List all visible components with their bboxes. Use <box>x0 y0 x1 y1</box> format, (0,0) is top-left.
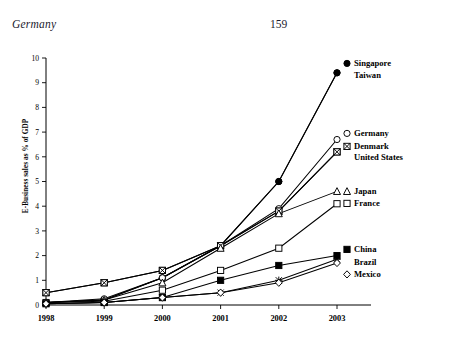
series-line-france <box>46 204 337 303</box>
series-lines <box>46 73 337 304</box>
series-line-mexico <box>46 263 337 304</box>
legend-label-singapore: Singapore <box>354 58 391 68</box>
x-tick-label: 2003 <box>329 314 346 323</box>
series-line-denmark <box>46 152 337 293</box>
series-line-japan <box>46 191 337 302</box>
marker-taiwan-2003 <box>334 70 340 76</box>
marker-taiwan-2002 <box>276 178 282 184</box>
legend-label-united-states: United States <box>354 152 404 162</box>
y-tick-label: 2 <box>35 251 39 260</box>
y-tick-label: 4 <box>35 202 39 211</box>
series-line-singapore <box>46 73 337 303</box>
legend-marker-singapore <box>344 60 350 66</box>
x-axis: 199819992000200120022003 <box>38 305 371 323</box>
y-axis: 012345678910 <box>31 54 46 310</box>
marker-france-2000 <box>159 287 165 293</box>
marker-japan-2003 <box>334 188 341 195</box>
series-line-united-states <box>46 152 337 293</box>
page: Germany 159 E-Business sales as % of GDP… <box>0 0 451 339</box>
legend-label-japan: Japan <box>354 186 377 196</box>
y-tick-label: 10 <box>31 54 39 63</box>
marker-france-2001 <box>218 267 224 273</box>
y-tick-label: 7 <box>35 128 39 137</box>
y-tick-label: 5 <box>35 177 39 186</box>
page-number: 159 <box>0 18 451 30</box>
y-tick-label: 1 <box>35 276 39 285</box>
legend-label-denmark: Denmark <box>354 141 389 151</box>
legend-label-taiwan: Taiwan <box>354 70 381 80</box>
legend-label-france: France <box>354 198 380 208</box>
chart-legend: SingaporeTaiwanGermanyDenmarkUnited Stat… <box>344 58 404 279</box>
legend-marker-mexico <box>344 271 351 278</box>
legend-marker-china <box>344 246 350 252</box>
x-tick-label: 1998 <box>38 314 55 323</box>
x-tick-label: 2002 <box>270 314 287 323</box>
x-tick-label: 2001 <box>212 314 229 323</box>
marker-france-2002 <box>276 245 282 251</box>
legend-marker-france <box>344 200 350 206</box>
x-tick-label: 1999 <box>96 314 113 323</box>
series-line-taiwan <box>46 73 337 303</box>
marker-germany-2003 <box>334 136 340 142</box>
marker-china-2002 <box>276 262 282 268</box>
legend-label-germany: Germany <box>354 128 390 138</box>
y-tick-label: 9 <box>35 78 39 87</box>
y-tick-label: 8 <box>35 103 39 112</box>
legend-marker-japan <box>344 188 351 195</box>
marker-china-2001 <box>218 277 224 283</box>
legend-label-mexico: Mexico <box>354 269 381 279</box>
legend-marker-germany <box>344 130 350 136</box>
x-tick-label: 2000 <box>154 314 171 323</box>
y-tick-label: 3 <box>35 227 39 236</box>
y-axis-label: E-Business sales as % of GDP <box>22 96 30 236</box>
running-head: Germany 159 <box>0 18 451 34</box>
legend-label-china: China <box>354 244 377 254</box>
y-tick-label: 0 <box>35 301 39 310</box>
y-tick-label: 6 <box>35 153 39 162</box>
marker-france-2003 <box>334 201 340 207</box>
figure-caption <box>10 330 440 339</box>
legend-label-brazil: Brazil <box>354 257 377 267</box>
chart-canvas: 012345678910 199819992000200120022003 Si… <box>0 44 451 329</box>
series-line-china <box>46 256 337 304</box>
line-chart-figure: E-Business sales as % of GDP 01234567891… <box>0 44 451 329</box>
